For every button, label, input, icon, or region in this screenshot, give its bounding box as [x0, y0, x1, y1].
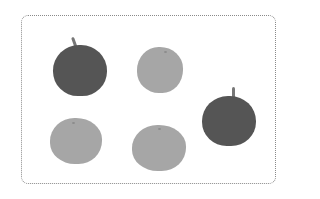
orange-1 [137, 47, 183, 93]
apple-icon [202, 96, 256, 146]
orange-2 [50, 118, 102, 164]
navel [72, 122, 75, 124]
orange-icon [50, 118, 102, 164]
apple-icon [53, 45, 107, 96]
apple-2 [202, 87, 256, 146]
orange-icon [137, 47, 183, 93]
navel [158, 128, 161, 130]
orange-3 [132, 125, 186, 171]
orange-icon [132, 125, 186, 171]
apple-1 [53, 37, 107, 96]
navel [164, 51, 167, 53]
